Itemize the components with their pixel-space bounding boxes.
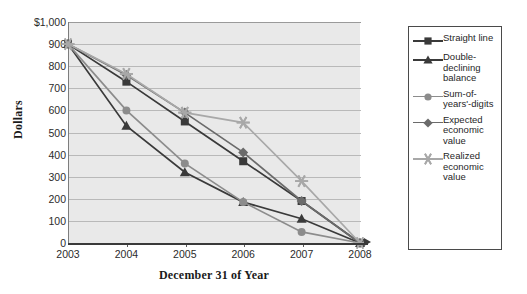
legend-item-label: Sum-of-years'-digits [443, 89, 497, 110]
y-axis-tick-label: 300 [20, 172, 66, 182]
y-axis-tick-label: 500 [20, 128, 66, 138]
x-axis-tick-label: 2004 [103, 248, 149, 260]
y-axis-tick-label: 900 [20, 39, 66, 49]
x-axis-tick-label: 2003 [45, 248, 91, 260]
x-axis-arrow-icon [364, 238, 371, 246]
y-axis-tick-label: $1,000 [20, 17, 66, 27]
series-line [68, 44, 360, 243]
legend-item-label: Expected economic value [443, 115, 497, 147]
legend-item[interactable]: Sum-of-years'-digits [413, 89, 497, 110]
data-point-square [181, 117, 189, 125]
data-point-circle [181, 159, 189, 167]
data-point-circle [239, 198, 247, 206]
legend-marker-circle-icon [413, 90, 443, 103]
legend-marker-diamond-icon [413, 116, 443, 129]
y-axis-tick-label: 700 [20, 83, 66, 93]
x-axis-tick-label: 2005 [162, 248, 208, 260]
legend-item[interactable]: Realized economic value [413, 151, 497, 183]
y-axis-tick-label: 200 [20, 194, 66, 204]
data-point-square [239, 157, 247, 165]
chart-legend: Straight lineDouble-declining balanceSum… [408, 26, 502, 250]
x-axis-tick-label: 2008 [337, 248, 383, 260]
legend-marker-square-icon [413, 34, 443, 47]
series-line [68, 44, 360, 243]
legend-marker-glyph [421, 152, 435, 166]
y-axis-tick-label: 0 [20, 238, 66, 248]
x-axis-tick-label: 2007 [279, 248, 325, 260]
series-layer [68, 22, 360, 243]
x-axis-title: December 31 of Year [68, 268, 360, 283]
data-point-circle [298, 228, 306, 236]
x-axis-tick-label: 2006 [220, 248, 266, 260]
y-axis-tick-label: 100 [20, 216, 66, 226]
legend-item[interactable]: Expected economic value [413, 115, 497, 147]
series-1 [64, 40, 364, 247]
x-axis-line [68, 243, 368, 245]
y-axis-tick-label: 800 [20, 61, 66, 71]
legend-marker-triangle-icon [413, 53, 443, 66]
y-axis-tick-label: 400 [20, 150, 66, 160]
series-line [68, 44, 360, 243]
data-point-asterisk [422, 154, 434, 165]
legend-item-label: Straight line [443, 33, 493, 44]
data-point-circle [122, 106, 130, 114]
legend-item-label: Realized economic value [443, 151, 497, 183]
y-axis-tick-label: 600 [20, 105, 66, 115]
series-line [68, 44, 360, 243]
data-point-circle [424, 93, 431, 100]
legend-item[interactable]: Double-declining balance [413, 52, 497, 84]
legend-marker-glyph [421, 116, 435, 130]
x-axis-tick-labels: 200320042005200620072008 [0, 248, 527, 264]
legend-marker-glyph [421, 53, 435, 67]
data-point-triangle [423, 55, 432, 63]
data-point-square [424, 37, 431, 44]
legend-marker-asterisk-icon [413, 152, 443, 165]
legend-item-label: Double-declining balance [443, 52, 497, 84]
series-line [68, 44, 360, 243]
legend-marker-glyph [421, 34, 435, 48]
data-point-diamond [423, 118, 432, 127]
legend-marker-glyph [421, 90, 435, 104]
chart-figure: Dollars $1,00090080070060050040030020010… [0, 0, 527, 294]
legend-item[interactable]: Straight line [413, 33, 497, 47]
